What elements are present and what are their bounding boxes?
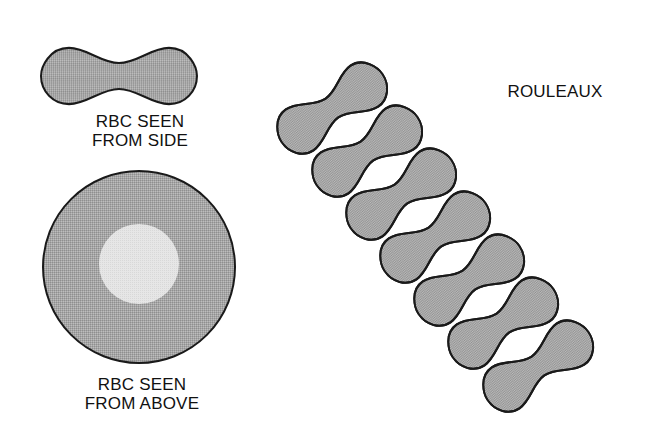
side-view-label-line1: RBC SEEN [70, 112, 210, 131]
side-view-label-line2: FROM SIDE [70, 131, 210, 150]
rbc-side-view [41, 48, 197, 104]
rouleaux-label-text: ROULEAUX [495, 82, 615, 101]
top-view-label-line1: RBC SEEN [62, 375, 222, 394]
side-view-label: RBC SEEN FROM SIDE [70, 112, 210, 150]
rouleaux-label: ROULEAUX [495, 82, 615, 101]
top-view-label-line2: FROM ABOVE [62, 394, 222, 413]
top-view-label: RBC SEEN FROM ABOVE [62, 375, 222, 413]
rbc-central-pallor [99, 224, 179, 304]
rbc-top-view [43, 171, 235, 363]
rouleaux-stack [268, 54, 603, 421]
